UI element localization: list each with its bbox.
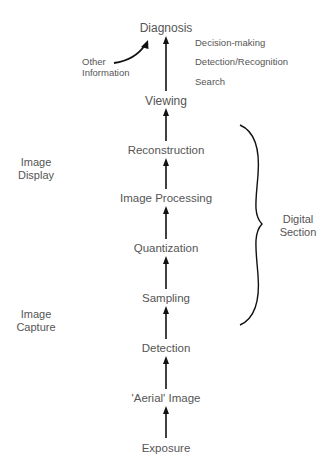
stage-reconstruction: Reconstruction: [128, 145, 205, 157]
stage-aerial-image: 'Aerial' Image: [132, 393, 201, 405]
stage-image-processing: Image Processing: [120, 193, 212, 205]
group-image-display-line2: Display: [18, 169, 54, 182]
subtask-decision-making: Decision-making: [195, 38, 265, 48]
stage-exposure: Exposure: [142, 443, 191, 455]
subtask-detection-recognition: Detection/Recognition: [195, 57, 288, 67]
subtask-search: Search: [195, 77, 225, 87]
group-digital-section-line2: Section: [280, 226, 317, 239]
other-information-line1: Other: [82, 56, 130, 67]
group-image-capture: Image Capture: [16, 308, 55, 334]
group-digital-section: Digital Section: [280, 213, 317, 239]
other-information-label: Other Information: [82, 56, 130, 78]
group-image-capture-line2: Capture: [16, 321, 55, 334]
stage-diagnosis: Diagnosis: [140, 22, 193, 34]
group-digital-section-line1: Digital: [280, 213, 317, 226]
stage-sampling: Sampling: [142, 293, 190, 305]
stage-viewing: Viewing: [145, 95, 187, 107]
group-image-display: Image Display: [18, 156, 54, 182]
digital-section-brace: [240, 125, 262, 325]
other-information-line2: Information: [82, 67, 130, 78]
stage-detection: Detection: [142, 343, 191, 355]
stage-quantization: Quantization: [134, 243, 199, 255]
group-image-capture-line1: Image: [16, 308, 55, 321]
group-image-display-line1: Image: [18, 156, 54, 169]
